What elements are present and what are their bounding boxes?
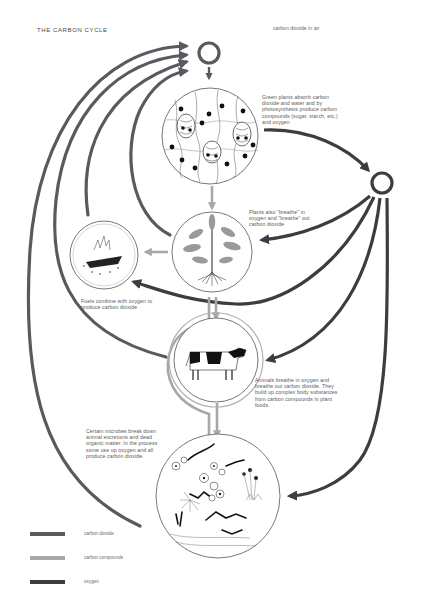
fire-illustration (70, 221, 138, 289)
co2-air-circle (199, 43, 219, 63)
legend-label-carbon-compounds: carbon compounds (84, 555, 123, 560)
caption-decomposition: Certain microbes break down animal excre… (86, 428, 168, 459)
caption-combustion: Fuels combine with oxygen to produce car… (81, 298, 157, 310)
legend-label-carbon-dioxide: carbon dioxide (84, 531, 114, 536)
caption-plant-respiration: Plants also "breathe" in oxygen and "bre… (249, 209, 321, 228)
legend-swatch-carbon-compounds (30, 556, 65, 560)
diagram-canvas (0, 0, 421, 601)
o2-circle (372, 173, 392, 193)
cow-illustration (169, 313, 263, 407)
caption-animals: Animals breathe in oxygen and breathe ou… (255, 377, 339, 408)
carbon-cycle-diagram: THE CARBON CYCLE carbon dioxide in air G… (0, 0, 421, 601)
air-label: carbon dioxide in air (273, 25, 319, 31)
legend-label-oxygen: oxygen (84, 579, 99, 584)
legend-swatch-carbon-dioxide (30, 532, 65, 536)
microbes-illustration (156, 434, 280, 558)
diagram-title: THE CARBON CYCLE (37, 27, 108, 33)
caption-photosynthesis: Green plants absorb carbon dioxide and w… (262, 94, 344, 125)
legend (30, 532, 65, 584)
legend-swatch-oxygen (30, 580, 65, 584)
o2-arrow-from-leaf (264, 130, 368, 170)
plant-illustration (172, 212, 252, 292)
leaf-cells-illustration (162, 88, 258, 184)
